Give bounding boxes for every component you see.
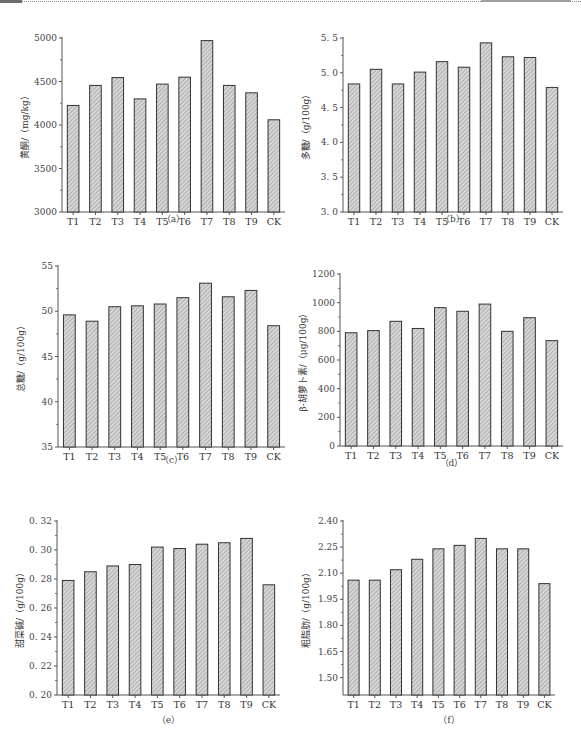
bar-t8 [223,85,235,212]
bar-t1 [63,315,75,447]
y-tick-label: 800 [318,326,335,336]
x-category-label: T3 [390,699,402,710]
bar-ck [268,120,280,212]
x-category-label: T3 [107,699,119,710]
x-category-label: T5 [436,216,448,227]
y-tick-label: 3000 [34,207,57,217]
bar-t2 [85,572,97,695]
x-category-label: T8 [496,699,508,710]
page-header-mark [0,0,22,3]
bar-t2 [86,321,98,447]
bar-t5 [435,308,447,446]
chart-caption: （b） [441,214,465,224]
bar-t8 [502,57,513,212]
bar-t9 [245,290,257,447]
y-tick-label: 0 [329,441,335,451]
x-category-label: T6 [173,699,185,710]
x-category-label: T9 [245,451,257,462]
x-category-label: T2 [369,699,381,710]
x-category-label: T1 [347,699,359,710]
y-tick-label: 0. 22 [29,661,52,671]
page-header-mark-right [481,0,571,2]
y-tick-label: 2.25 [318,542,338,552]
bar-t5 [157,84,169,212]
x-category-label: T5 [154,451,166,462]
x-category-label: CK [537,699,552,710]
x-category-label: T7 [196,699,208,710]
x-category-label: T7 [479,450,491,461]
x-category-label: T6 [453,699,465,710]
bar-t7 [480,43,491,212]
y-tick-label: 0. 28 [29,574,52,584]
y-tick-label: 0. 30 [29,545,52,555]
x-category-label: T4 [129,699,141,710]
bar-t9 [524,57,535,212]
bar-t4 [134,99,146,212]
x-category-label: T5 [151,699,163,710]
bar-t1 [348,580,359,695]
x-category-label: T4 [412,450,424,461]
bar-t4 [412,328,424,446]
chart-caption: （d） [440,458,464,468]
y-tick-label: 0. 20 [29,690,52,700]
bar-t3 [392,84,403,212]
bar-t3 [112,78,124,212]
y-tick-label: 40 [42,397,54,407]
bar-t5 [154,304,166,447]
x-category-label: T3 [109,451,121,462]
x-category-label: T9 [517,699,529,710]
x-category-label: T8 [222,451,234,462]
x-category-label: T7 [201,216,213,227]
chart-caption: （e） [157,715,180,725]
y-axis-title: 甜菜碱/（g/100g） [14,568,25,648]
bar-t6 [458,67,469,212]
chart-caption: （a） [162,214,185,224]
x-category-label: CK [266,451,281,462]
bar-t2 [90,85,102,212]
x-category-label: T3 [392,216,404,227]
y-tick-label: 45 [42,352,54,362]
y-tick-label: 4. 0 [321,137,338,147]
x-category-label: T3 [112,216,124,227]
x-category-label: T8 [218,699,230,710]
bar-t7 [196,544,208,695]
bar-t3 [107,566,119,695]
bar-t1 [348,84,359,212]
bar-t3 [390,570,401,695]
bar-t5 [152,547,164,695]
bar-t7 [479,304,491,446]
y-axis-title: 粗脂肪/（g/100g） [300,568,311,648]
x-category-label: T9 [245,216,257,227]
bar-t9 [241,538,253,695]
y-tick-label: 0. 24 [29,632,52,642]
y-axis-title: 黄酮/（mg/kg） [19,91,30,159]
bar-t8 [501,331,513,446]
bar-t6 [454,545,465,695]
x-category-label: T1 [62,699,74,710]
bar-t7 [201,41,213,212]
bar-ck [539,584,550,695]
y-axis-title: 多糖/（g/100g） [300,90,311,161]
y-tick-label: 2.10 [318,568,338,578]
bar-t1 [67,105,79,212]
bar-t6 [177,298,189,447]
bar-t2 [368,331,380,446]
x-category-label: T8 [223,216,235,227]
bar-t7 [200,283,212,447]
x-category-label: T2 [367,450,379,461]
y-tick-label: 200 [318,412,335,422]
bar-t6 [174,549,186,695]
x-category-label: T1 [63,451,75,462]
y-tick-label: 1.65 [318,647,338,657]
x-category-label: CK [545,450,560,461]
x-category-label: T2 [86,451,98,462]
bar-ck [546,341,558,446]
bar-t2 [369,580,380,695]
x-category-label: T7 [199,451,211,462]
x-category-label: CK [267,216,282,227]
bar-t8 [218,543,230,695]
y-tick-label: 35 [42,442,54,452]
bar-ck [268,326,280,447]
x-category-label: T2 [370,216,382,227]
bar-ck [546,87,557,212]
